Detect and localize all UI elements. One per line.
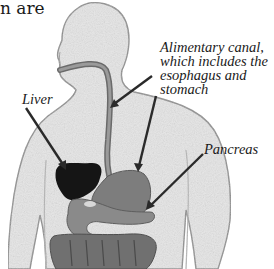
label-alimentary-line-3: esophagus and: [160, 68, 268, 82]
digestive-system-diagram: n are Liver Alimentary canal, which incl…: [0, 0, 274, 269]
label-pancreas: Pancreas: [204, 142, 258, 156]
label-alimentary-line-1: Alimentary canal,: [160, 40, 268, 54]
label-alimentary-line-4: stomach: [160, 82, 268, 96]
header-text-fragment: n are: [0, 0, 45, 18]
label-alimentary-line-2: which includes the: [160, 54, 268, 68]
label-liver: Liver: [22, 92, 53, 106]
label-alimentary-canal: Alimentary canal, which includes the eso…: [160, 40, 268, 96]
